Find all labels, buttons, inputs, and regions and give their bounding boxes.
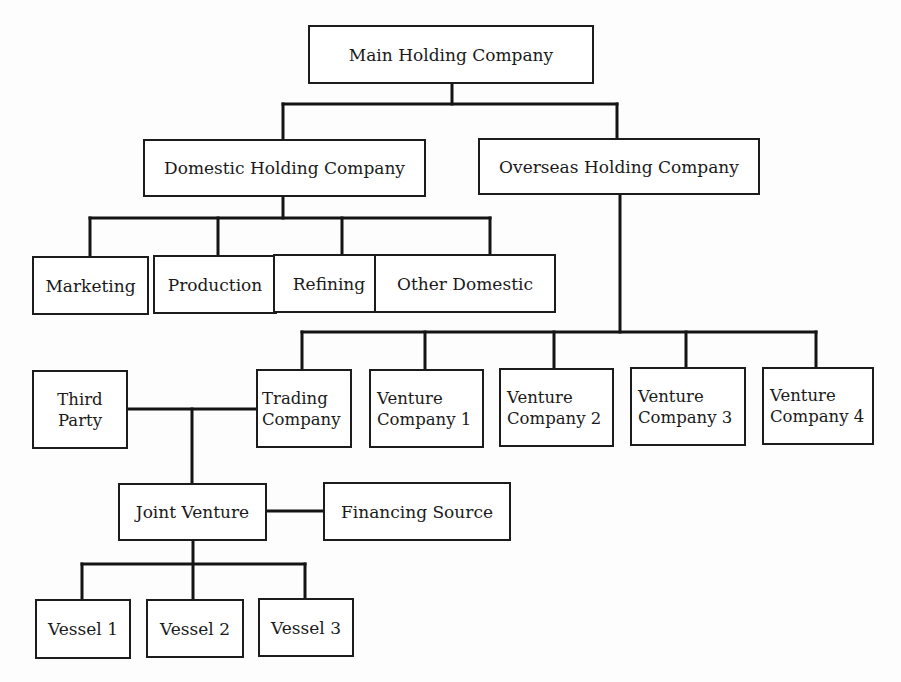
node-overseas-holding-company: Overseas Holding Company — [478, 138, 760, 195]
node-venture-company-1: Venture Company 1 — [369, 369, 484, 448]
node-joint-venture: Joint Venture — [118, 483, 267, 541]
node-venture-company-4: Venture Company 4 — [762, 367, 874, 445]
node-trading-company: Trading Company — [256, 369, 352, 448]
node-financing-source: Financing Source — [323, 482, 511, 541]
node-venture-company-3: Venture Company 3 — [630, 367, 746, 446]
node-vessel-3: Vessel 3 — [258, 598, 354, 657]
node-refining: Refining — [273, 254, 385, 313]
node-main-holding-company: Main Holding Company — [308, 25, 594, 84]
node-third-party: Third Party — [32, 370, 128, 449]
node-venture-company-2: Venture Company 2 — [499, 368, 614, 447]
connector-lines — [0, 0, 901, 682]
node-other-domestic: Other Domestic — [374, 254, 556, 313]
node-vessel-1: Vessel 1 — [35, 599, 131, 659]
node-vessel-2: Vessel 2 — [146, 599, 244, 658]
node-marketing: Marketing — [32, 256, 149, 315]
node-domestic-holding-company: Domestic Holding Company — [143, 139, 426, 197]
node-production: Production — [153, 255, 277, 314]
